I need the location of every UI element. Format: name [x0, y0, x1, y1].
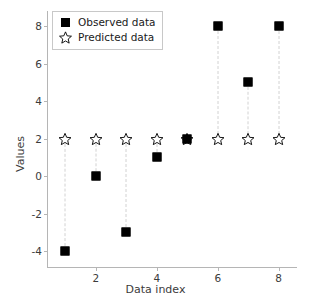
- connector-line: [65, 139, 66, 252]
- data-point-observed: [244, 78, 253, 87]
- x-tick-mark: [96, 268, 97, 271]
- filled-square-icon: [58, 18, 73, 27]
- connector-line: [248, 82, 249, 138]
- open-star-icon: [58, 31, 73, 44]
- connector-line: [217, 26, 218, 139]
- y-tick-mark: [44, 26, 47, 27]
- data-point-observed: [61, 247, 70, 256]
- chart-legend: Observed data Predicted data: [52, 11, 163, 50]
- x-axis-spine: [47, 267, 297, 268]
- connector-line: [278, 26, 279, 139]
- legend-label-predicted: Predicted data: [78, 32, 154, 43]
- x-tick-mark: [279, 268, 280, 271]
- data-point-observed: [183, 134, 192, 143]
- y-tick-mark: [44, 214, 47, 215]
- y-tick-label: 4: [35, 96, 42, 107]
- x-tick-mark: [157, 268, 158, 271]
- data-point-observed: [213, 22, 222, 31]
- data-point-observed: [274, 22, 283, 31]
- y-tick-label: -2: [32, 208, 42, 219]
- data-point-predicted: [272, 132, 285, 145]
- y-tick-label: 0: [35, 171, 42, 182]
- y-axis-label: Values: [14, 136, 27, 172]
- y-axis-spine: [47, 11, 48, 268]
- y-tick-mark: [44, 64, 47, 65]
- data-point-observed: [122, 228, 131, 237]
- x-tick-label: 4: [153, 273, 160, 284]
- data-point-predicted: [59, 132, 72, 145]
- y-tick-mark: [44, 176, 47, 177]
- y-tick-label: 2: [35, 133, 42, 144]
- chart-figure: -4-202468 2468 Values Data index Observe…: [0, 0, 311, 308]
- x-tick-label: 2: [92, 273, 99, 284]
- x-tick-label: 8: [275, 273, 282, 284]
- connector-line: [126, 139, 127, 233]
- data-point-observed: [91, 172, 100, 181]
- legend-item-observed: Observed data: [58, 15, 156, 30]
- legend-item-predicted: Predicted data: [58, 30, 156, 45]
- y-tick-mark: [44, 101, 47, 102]
- y-tick-label: 6: [35, 58, 42, 69]
- data-point-predicted: [150, 132, 163, 145]
- x-axis-label: Data index: [0, 283, 311, 296]
- data-point-predicted: [89, 132, 102, 145]
- data-point-observed: [152, 153, 161, 162]
- y-tick-label: 8: [35, 21, 42, 32]
- x-tick-label: 6: [214, 273, 221, 284]
- data-point-predicted: [120, 132, 133, 145]
- data-point-predicted: [242, 132, 255, 145]
- y-tick-label: -4: [32, 246, 42, 257]
- x-tick-mark: [218, 268, 219, 271]
- y-tick-mark: [44, 139, 47, 140]
- legend-label-observed: Observed data: [78, 17, 156, 28]
- y-tick-mark: [44, 251, 47, 252]
- data-point-predicted: [211, 132, 224, 145]
